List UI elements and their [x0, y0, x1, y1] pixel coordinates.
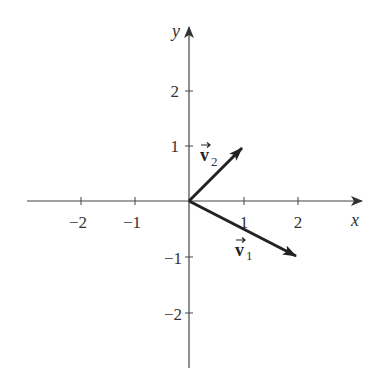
y-tick-label: −2: [164, 305, 182, 324]
v2-subscript: 2: [211, 154, 218, 169]
y-tick-label: −1: [164, 249, 182, 268]
y-tick-label: 2: [171, 82, 180, 101]
v1-symbol: v: [235, 240, 244, 260]
v1-subscript: 1: [246, 248, 253, 263]
x-tick-label: 2: [294, 213, 303, 232]
vector-v1-label: v 1: [235, 238, 253, 264]
x-tick-label: −1: [123, 213, 141, 232]
vector-diagram: −2 −1 1 2 2 1 −1 −2 x y v 1 v 2: [0, 0, 388, 392]
y-tick-label: 1: [171, 137, 180, 156]
vector-v2-label: v 2: [200, 143, 218, 170]
x-axis-label: x: [350, 210, 359, 230]
y-axis-label: y: [170, 21, 180, 41]
v2-symbol: v: [200, 145, 209, 165]
x-tick-label: −2: [69, 213, 87, 232]
